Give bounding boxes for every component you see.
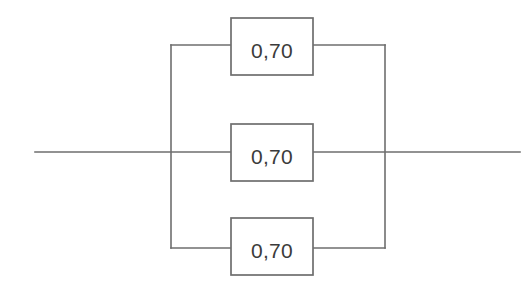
- reliability-block-diagram: 0,70 0,70 0,70: [0, 0, 530, 299]
- diagram-canvas: 0,70 0,70 0,70: [0, 0, 530, 299]
- block-middle-label: 0,70: [251, 145, 293, 168]
- block-bottom-label: 0,70: [251, 239, 293, 262]
- block-top-label: 0,70: [251, 39, 293, 62]
